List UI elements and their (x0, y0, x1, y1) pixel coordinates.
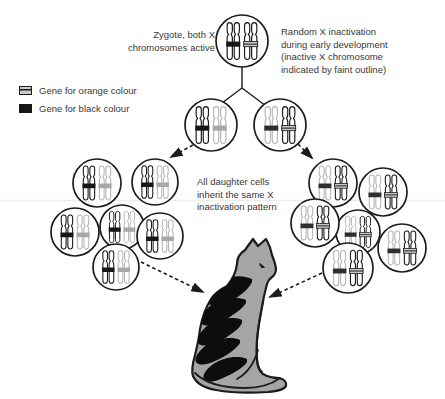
cell-left-cluster-midleft (51, 208, 99, 256)
black-gene-swatch-icon (19, 104, 32, 113)
dashed-arrow (298, 144, 312, 158)
zygote-label: Zygote, both X chromosomes active (103, 29, 215, 54)
legend: Gene for orange colour Gene for black co… (19, 81, 137, 117)
legend-item-orange: Gene for orange colour (19, 81, 137, 99)
orange-gene-swatch-icon (19, 86, 32, 95)
cell-progenitor-left (185, 99, 237, 151)
legend-item-black: Gene for black colour (19, 99, 137, 117)
cell-zygote (216, 15, 268, 67)
cell-right-cluster-bottom (323, 243, 373, 293)
dashed-arrow (270, 273, 322, 297)
daughter-cells-label: All daughter cells inherit the same X in… (197, 176, 309, 214)
figure-canvas: Zygote, both X chromosomes active Random… (0, 0, 445, 399)
legend-label-black: Gene for black colour (39, 103, 129, 114)
random-inactivation-label: Random X inactivation during early devel… (281, 26, 443, 76)
cell-right-cluster-right (378, 224, 426, 272)
dashed-arrow (141, 262, 203, 292)
cell-left-cluster-midright (137, 213, 183, 259)
legend-label-orange: Gene for orange colour (39, 85, 137, 96)
cell-left-cluster-topleft (73, 159, 121, 207)
cell-left-cluster-topright (132, 159, 178, 205)
dashed-arrow (171, 145, 193, 157)
cell-progenitor-right (254, 99, 306, 151)
cell-left-cluster-bottom (93, 244, 139, 290)
cat-illustration (192, 239, 286, 393)
cell-right-cluster-topright (359, 168, 407, 216)
